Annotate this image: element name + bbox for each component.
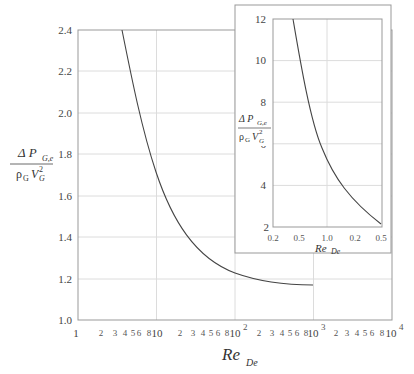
svg-text:2: 2 <box>257 328 262 338</box>
svg-text:10: 10 <box>152 327 164 339</box>
svg-text:5: 5 <box>209 328 214 338</box>
svg-text:10: 10 <box>230 327 242 339</box>
svg-text:6: 6 <box>216 328 221 338</box>
svg-text:4: 4 <box>399 322 404 332</box>
svg-text:1.4: 1.4 <box>58 231 72 243</box>
svg-text:G,e: G,e <box>42 154 54 163</box>
svg-text:2: 2 <box>334 328 339 338</box>
inset-y-label: Δ P G,e ρ G V G 2 <box>236 110 272 146</box>
svg-text:1.8: 1.8 <box>58 148 72 160</box>
svg-text:5: 5 <box>288 328 293 338</box>
svg-text:4: 4 <box>280 328 285 338</box>
main-x-label: Re De <box>221 345 258 368</box>
svg-text:4: 4 <box>261 179 267 191</box>
svg-text:1.6: 1.6 <box>58 190 72 202</box>
svg-text:3: 3 <box>113 328 118 338</box>
svg-text:1.0: 1.0 <box>58 314 72 326</box>
chart: 2.4 2.2 2.0 1.8 1.6 1.4 1.2 1.0 1 2 3 4 … <box>0 0 414 374</box>
svg-text:10: 10 <box>255 54 267 66</box>
main-y-ticks: 2.4 2.2 2.0 1.8 1.6 1.4 1.2 1.0 <box>58 24 72 326</box>
svg-text:G: G <box>23 174 29 183</box>
svg-text:4: 4 <box>355 328 360 338</box>
svg-text:6: 6 <box>370 328 375 338</box>
svg-text:0.2: 0.2 <box>349 233 360 243</box>
svg-text:2.2: 2.2 <box>58 65 72 77</box>
svg-text:10: 10 <box>308 327 320 339</box>
svg-text:3: 3 <box>270 328 275 338</box>
svg-text:3: 3 <box>345 328 350 338</box>
svg-text:3: 3 <box>321 322 326 332</box>
svg-text:1: 1 <box>73 327 79 339</box>
svg-text:4: 4 <box>201 328 206 338</box>
svg-text:8: 8 <box>380 328 385 338</box>
svg-text:0.5: 0.5 <box>293 233 305 243</box>
svg-text:ρ: ρ <box>16 167 22 181</box>
svg-text:De: De <box>330 247 341 256</box>
svg-text:G,e: G,e <box>257 119 267 127</box>
svg-text:Δ P: Δ P <box>17 145 37 160</box>
inset-chart: 12 10 8 6 4 2 0.2 0.5 1.0 0.2 0.5 Re De … <box>235 5 391 256</box>
svg-text:2: 2 <box>178 328 183 338</box>
svg-text:G: G <box>245 136 250 144</box>
svg-text:8: 8 <box>261 96 267 108</box>
svg-text:2: 2 <box>259 128 263 136</box>
svg-text:2: 2 <box>99 328 104 338</box>
svg-text:0.2: 0.2 <box>267 233 278 243</box>
main-x-ticks: 1 2 3 4 5 6 8 10 2 3 4 5 6 8 10 2 2 3 4 … <box>73 322 404 339</box>
svg-text:6: 6 <box>295 328 300 338</box>
svg-text:2: 2 <box>39 165 43 174</box>
svg-text:ρ: ρ <box>239 131 244 142</box>
svg-text:4: 4 <box>123 328 128 338</box>
svg-text:2.0: 2.0 <box>58 107 72 119</box>
svg-text:12: 12 <box>255 13 266 25</box>
svg-text:10: 10 <box>386 327 398 339</box>
svg-text:0.5: 0.5 <box>375 233 387 243</box>
svg-text:Re: Re <box>314 242 327 254</box>
main-y-label: Δ P G,e ρ G V G 2 <box>10 145 54 183</box>
svg-text:G: G <box>259 137 264 145</box>
svg-text:De: De <box>245 357 258 368</box>
svg-text:6: 6 <box>137 328 142 338</box>
svg-text:5: 5 <box>363 328 368 338</box>
svg-text:Δ P: Δ P <box>238 113 253 124</box>
svg-text:Re: Re <box>221 345 240 364</box>
svg-text:2: 2 <box>264 221 270 233</box>
svg-text:G: G <box>39 174 45 183</box>
svg-text:5: 5 <box>131 328 136 338</box>
svg-text:1.2: 1.2 <box>58 273 72 285</box>
svg-text:3: 3 <box>191 328 196 338</box>
svg-text:2: 2 <box>243 322 248 332</box>
svg-text:2.4: 2.4 <box>58 24 72 36</box>
